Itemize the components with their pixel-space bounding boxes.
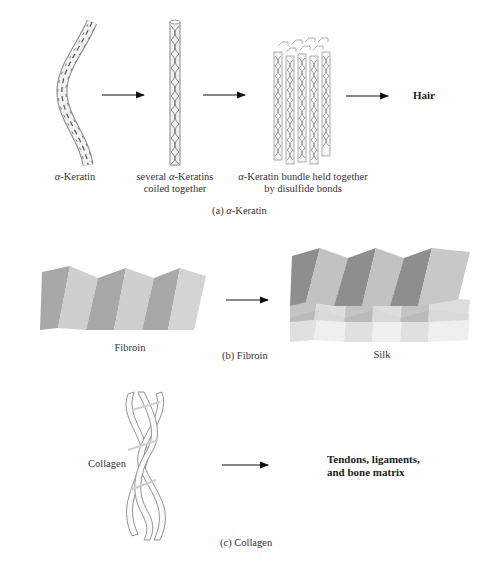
label-line-2: coiled together bbox=[125, 183, 225, 195]
keratin-bundle-icon bbox=[274, 38, 330, 164]
label-text: -Keratin bbox=[60, 171, 95, 182]
label-text: -Keratin bundle held together bbox=[244, 171, 368, 182]
label-line-2: by disulfide bonds bbox=[228, 183, 378, 195]
coiled-keratins-label: several α-Keratins coiled together bbox=[125, 171, 225, 195]
label-line-1: several α-Keratins bbox=[125, 171, 225, 183]
hair-label: Hair bbox=[413, 89, 435, 101]
keratin-bundle-label: α-Keratin bundle held together by disulf… bbox=[228, 171, 378, 195]
silk-label: Silk bbox=[362, 349, 402, 361]
fibroin-sheet-icon bbox=[40, 266, 206, 330]
caption-text: -Keratin bbox=[232, 205, 267, 216]
alpha-keratin-helix-icon bbox=[58, 22, 96, 165]
label-text: -Keratins bbox=[174, 171, 213, 182]
caption-c: (c) Collagen bbox=[220, 537, 272, 548]
label-line-1: Tendons, ligaments, bbox=[327, 453, 420, 466]
silk-stacked-sheets-icon bbox=[290, 248, 470, 342]
diagram-graphics bbox=[0, 0, 492, 573]
label-line-1: α-Keratin bundle held together bbox=[228, 171, 378, 183]
collagen-label: Collagen bbox=[82, 458, 132, 470]
coiled-keratins-icon bbox=[170, 20, 180, 165]
alpha-keratin-label: α-Keratin bbox=[30, 171, 120, 183]
label-line-2: and bone matrix bbox=[327, 466, 420, 479]
tendons-label: Tendons, ligaments, and bone matrix bbox=[327, 453, 420, 479]
label-text: several bbox=[137, 171, 169, 182]
caption-b: (b) Fibroin bbox=[222, 350, 268, 361]
caption-text: (a) bbox=[212, 205, 226, 216]
caption-a: (a) α-Keratin bbox=[212, 205, 267, 216]
fibroin-label: Fibroin bbox=[100, 342, 160, 354]
